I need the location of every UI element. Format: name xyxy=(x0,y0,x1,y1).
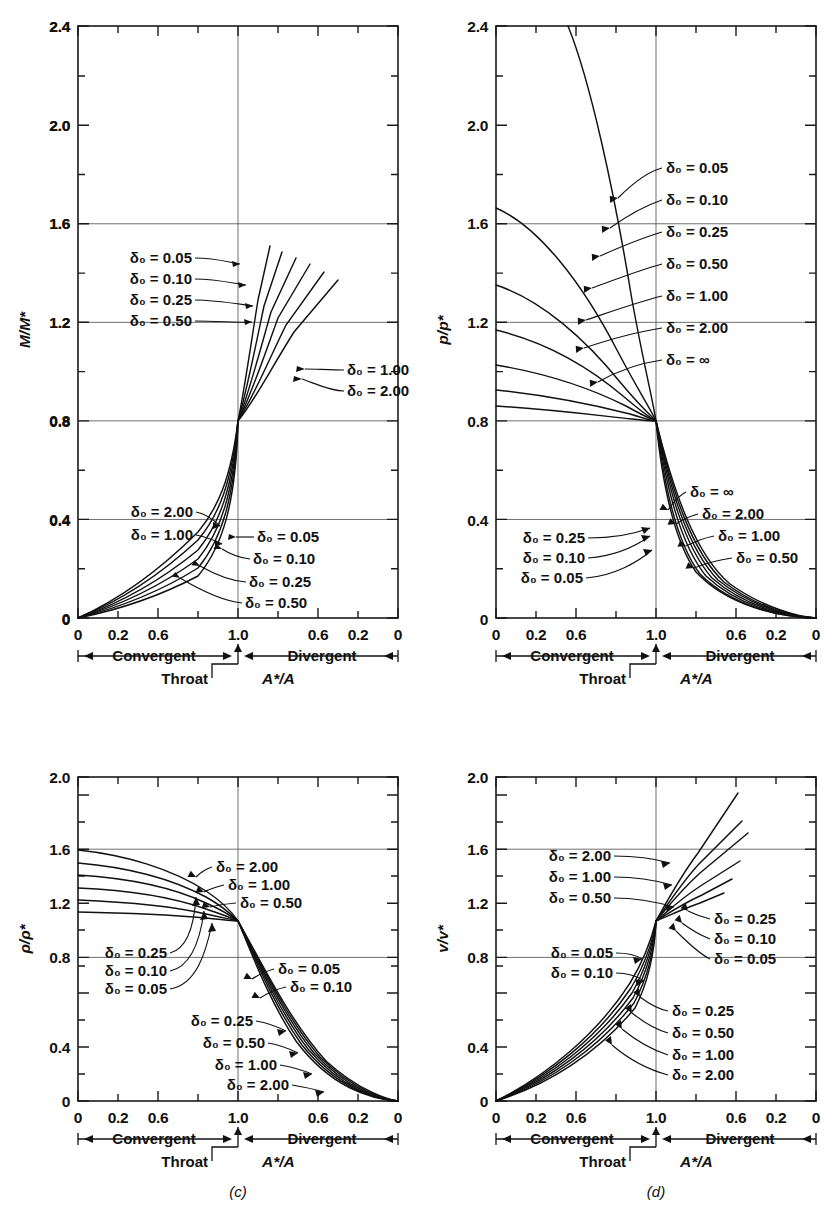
curves-supersonic-d xyxy=(656,793,748,921)
svg-text:δ₀ = 0.05: δ₀ = 0.05 xyxy=(714,950,776,967)
svg-text:δ₀ = 1.00: δ₀ = 1.00 xyxy=(228,876,290,893)
panel-a-plot-area xyxy=(78,26,398,618)
svg-text:δ₀ = 0.10: δ₀ = 0.10 xyxy=(290,978,352,995)
caption-b: (b) xyxy=(647,698,665,700)
svg-text:0.6: 0.6 xyxy=(308,1109,329,1126)
svg-text:0.4: 0.4 xyxy=(467,512,488,529)
legend-mid-right-c: δ₀ = 0.05 δ₀ = 0.10 xyxy=(278,960,352,995)
panel-a: 0 0.4 0.8 1.2 1.6 2.0 2.4 0 0.4 0.8 1.2 xyxy=(0,0,419,700)
arrowheads-upper-a xyxy=(232,261,253,325)
svg-text:2.0: 2.0 xyxy=(49,769,70,786)
y-tick-labels-d: 0 0.4 0.8 1.2 1.6 2.0 xyxy=(467,769,488,1110)
y-axis-label-b: p/p* xyxy=(434,314,451,345)
legend-mid-left-d: δ₀ = 0.05 δ₀ = 0.10 xyxy=(551,944,613,981)
legend-upper-right-c: δ₀ = 2.00 δ₀ = 1.00 δ₀ = 0.50 xyxy=(216,858,302,911)
convergent-label-b: Convergent xyxy=(530,647,613,664)
svg-text:0.4: 0.4 xyxy=(49,512,70,529)
divergent-label-b: Divergent xyxy=(705,647,774,664)
svg-text:0: 0 xyxy=(62,1093,70,1110)
svg-text:δ₀ = 2.00: δ₀ = 2.00 xyxy=(347,382,409,399)
panel-c: 0 0.4 0.8 1.2 1.6 2.0 ρ/ρ* δ₀ = 2.00 δ₀ … xyxy=(0,757,419,1221)
svg-text:δ₀ = 0.50: δ₀ = 0.50 xyxy=(736,549,798,566)
svg-text:δ₀ = 1.00: δ₀ = 1.00 xyxy=(131,526,193,543)
svg-text:2.0: 2.0 xyxy=(467,117,488,134)
arrowheads-upper-b xyxy=(574,193,619,387)
leaders-upper-right-d xyxy=(676,911,710,959)
svg-text:δ₀ = 2.00: δ₀ = 2.00 xyxy=(131,503,193,520)
leaders-upper-a xyxy=(195,258,253,322)
arrowheads-mid-right-c xyxy=(243,973,261,1001)
svg-text:δ₀ = 0.25: δ₀ = 0.25 xyxy=(523,529,585,546)
throat-leader-d xyxy=(630,1147,656,1161)
convergent-label-a: Convergent xyxy=(112,647,195,664)
svg-text:δ₀ = 0.25: δ₀ = 0.25 xyxy=(672,1002,734,1019)
caption-a: (a) xyxy=(229,698,247,700)
svg-text:δ₀ = 0.05: δ₀ = 0.05 xyxy=(105,980,167,997)
svg-text:0.6: 0.6 xyxy=(308,626,329,643)
svg-text:2.4: 2.4 xyxy=(49,18,70,35)
svg-text:1.6: 1.6 xyxy=(49,215,70,232)
svg-text:δ₀ = 0.10: δ₀ = 0.10 xyxy=(523,549,585,566)
legend-lower-c: δ₀ = 0.25 δ₀ = 0.50 δ₀ = 1.00 δ₀ = 2.00 xyxy=(191,1012,289,1093)
legend-lower-right-b: δ₀ = ∞ δ₀ = 2.00 δ₀ = 1.00 δ₀ = 0.50 xyxy=(690,483,798,566)
svg-text:0.6: 0.6 xyxy=(726,626,747,643)
divergent-label-d: Divergent xyxy=(705,1130,774,1147)
throat-label-d: Throat xyxy=(579,1153,626,1170)
svg-text:0.4: 0.4 xyxy=(467,1039,488,1056)
throat-leader-b xyxy=(630,664,656,678)
svg-text:δ₀ = 1.00: δ₀ = 1.00 xyxy=(672,1046,734,1063)
convergent-label-c: Convergent xyxy=(112,1130,195,1147)
svg-text:1.0: 1.0 xyxy=(646,1109,667,1126)
svg-text:1.2: 1.2 xyxy=(467,314,488,331)
y-tick-labels-a-full: 0 0.4 0.8 1.2 1.6 2.0 2.4 xyxy=(49,18,70,628)
x-tick-labels-d: 0 0.2 0.6 1.0 0.6 0.2 0 xyxy=(492,1109,820,1126)
svg-text:0.2: 0.2 xyxy=(766,626,787,643)
throat-label-c: Throat xyxy=(161,1153,208,1170)
svg-text:0.6: 0.6 xyxy=(566,1109,587,1126)
svg-text:δ₀ = 0.10: δ₀ = 0.10 xyxy=(105,962,167,979)
caption-d: (d) xyxy=(647,1183,665,1200)
svg-text:1.2: 1.2 xyxy=(49,895,70,912)
throat-leader-a xyxy=(212,664,238,678)
svg-text:δ₀ = 2.00: δ₀ = 2.00 xyxy=(672,1066,734,1083)
svg-text:0.6: 0.6 xyxy=(148,1109,169,1126)
svg-text:δ₀ = 0.05: δ₀ = 0.05 xyxy=(551,944,613,961)
svg-text:0: 0 xyxy=(480,1093,488,1110)
svg-text:δ₀ = 0.10: δ₀ = 0.10 xyxy=(551,964,613,981)
y-axis-label-a: M/M* xyxy=(16,311,33,348)
svg-text:0: 0 xyxy=(62,611,70,628)
svg-text:0.6: 0.6 xyxy=(566,626,587,643)
svg-text:δ₀ = 1.00: δ₀ = 1.00 xyxy=(718,527,780,544)
panel-d: 0 0.4 0.8 1.2 1.6 2.0 v/v* δ₀ = 2.00 δ₀ … xyxy=(418,757,837,1221)
svg-text:0: 0 xyxy=(480,611,488,628)
legend-left-lower-a: δ₀ = 2.00 δ₀ = 1.00 xyxy=(131,503,193,543)
svg-text:2.0: 2.0 xyxy=(467,769,488,786)
svg-text:0.8: 0.8 xyxy=(49,949,70,966)
svg-text:0.2: 0.2 xyxy=(526,1109,547,1126)
svg-text:0: 0 xyxy=(394,626,402,643)
svg-text:1.2: 1.2 xyxy=(467,895,488,912)
legend-lower-left-b: δ₀ = 0.25 δ₀ = 0.10 δ₀ = 0.05 xyxy=(521,529,585,586)
svg-text:0.8: 0.8 xyxy=(49,413,70,430)
panel-b-svg: 0 0.4 0.8 1.2 1.6 2.0 2.4 p/p* δ₀ = 0.05… xyxy=(418,0,837,700)
svg-text:1.2: 1.2 xyxy=(49,314,70,331)
x-tick-labels-a: 0 0.2 0.6 1.0 0.6 0.2 0 xyxy=(74,626,402,643)
panel-a-svg: 0 0.4 0.8 1.2 1.6 2.0 2.4 0 0.4 0.8 1.2 xyxy=(0,0,419,700)
legend-upper-right-d: δ₀ = 0.25 δ₀ = 0.10 δ₀ = 0.05 xyxy=(714,910,776,967)
svg-text:0.2: 0.2 xyxy=(108,1109,129,1126)
legend-lower-a: δ₀ = 0.05 δ₀ = 0.10 δ₀ = 0.25 δ₀ = 0.50 xyxy=(245,528,319,611)
svg-text:0: 0 xyxy=(812,1109,820,1126)
svg-text:0.2: 0.2 xyxy=(108,626,129,643)
panel-d-svg: 0 0.4 0.8 1.2 1.6 2.0 v/v* δ₀ = 2.00 δ₀ … xyxy=(418,757,837,1221)
svg-text:0.2: 0.2 xyxy=(348,1109,369,1126)
legend-lower-d: δ₀ = 0.25 δ₀ = 0.50 δ₀ = 1.00 δ₀ = 2.00 xyxy=(672,1002,734,1083)
x-tick-labels-b: 0 0.2 0.6 1.0 0.6 0.2 0 xyxy=(492,626,820,643)
legend-upper-left-d: δ₀ = 2.00 δ₀ = 1.00 δ₀ = 0.50 xyxy=(549,847,611,906)
svg-text:δ₀ = 0.05: δ₀ = 0.05 xyxy=(278,960,340,977)
svg-text:δ₀ = 0.25: δ₀ = 0.25 xyxy=(130,291,192,308)
svg-text:δ₀ = 0.10: δ₀ = 0.10 xyxy=(130,270,192,287)
convergent-label-d: Convergent xyxy=(530,1130,613,1147)
svg-text:δ₀ = ∞: δ₀ = ∞ xyxy=(666,351,710,368)
svg-text:δ₀ = 0.50: δ₀ = 0.50 xyxy=(245,594,307,611)
svg-text:1.6: 1.6 xyxy=(467,215,488,232)
